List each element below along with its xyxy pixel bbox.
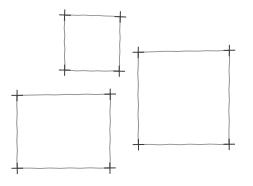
canvas-background <box>0 0 253 186</box>
rect-bottom-left-edge-bottom <box>17 168 110 169</box>
square-right-edge-left <box>138 52 139 144</box>
sketch-drawing-surface <box>0 0 253 186</box>
square-right-edge-bottom <box>138 144 229 145</box>
sketch-canvas <box>0 0 253 186</box>
